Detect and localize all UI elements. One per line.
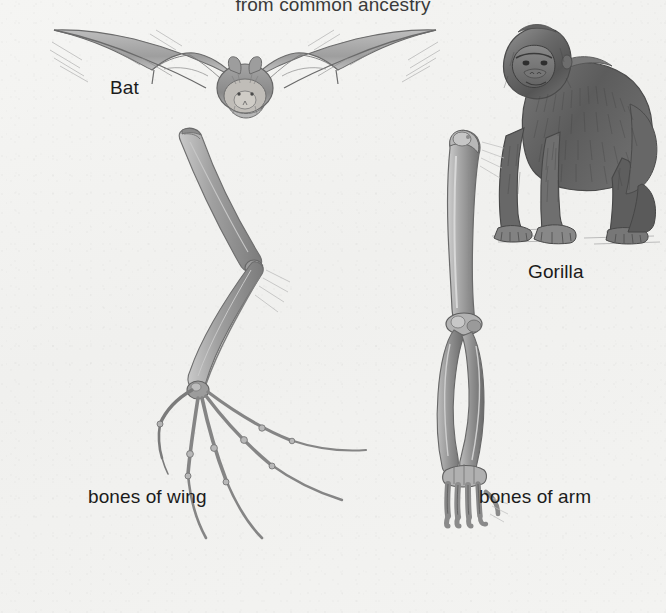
bat-digit-5 [208,392,366,451]
bat-body [217,57,273,118]
gorilla-humerus [448,130,504,324]
bat-radius-ulna [188,262,290,390]
gorilla-head [504,25,572,99]
bat-digit-3 [202,398,262,538]
bat-humerus [179,128,261,272]
bat-in-flight-illustration [30,6,460,126]
gorilla-ulna [460,332,484,475]
gorilla-arm-skeleton-illustration [404,126,534,526]
gorilla-metacarpals [447,484,480,517]
bat-wing-skeleton-illustration [120,118,385,538]
label-gorilla: Gorilla [528,262,584,281]
gorilla-radius [437,330,464,474]
bat-left-wing [50,30,236,88]
label-bones-of-wing: bones of wing [88,487,207,506]
label-bones-of-arm: bones of arm [479,487,591,506]
bat-right-wing [254,30,440,88]
bat-digit-2 [185,398,206,538]
label-bat: Bat [110,78,139,97]
homologous-structures-figure: from common ancestry [0,0,666,613]
gorilla-elbow-joint [446,313,482,335]
bat-digit-1-thumb [157,390,192,474]
